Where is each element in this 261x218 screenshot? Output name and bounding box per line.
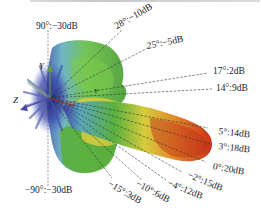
axis-label-y: Y — [39, 62, 44, 71]
annotation-label-17: 17°:2dB — [213, 67, 245, 77]
axis-label-z: Z — [13, 96, 18, 105]
back-lobes — [24, 62, 70, 134]
annotation-label-neg90: −90°:−30dB — [25, 186, 72, 196]
svg-text:x=y: x=y — [66, 99, 75, 105]
annotation-label-90: 90°:−30dB — [36, 22, 78, 32]
annotation-label-14: 14°:9dB — [216, 84, 248, 94]
